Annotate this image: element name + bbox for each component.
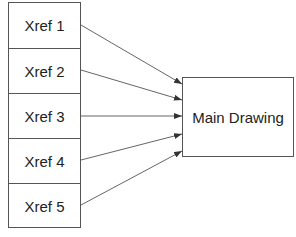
xref-label: Xref 2 bbox=[24, 63, 64, 80]
arrow-xref-1 bbox=[81, 25, 182, 84]
xref-label: Xref 1 bbox=[24, 17, 64, 34]
arrow-xref-4 bbox=[81, 134, 182, 160]
xref-box-3: Xref 3 bbox=[9, 93, 80, 138]
xref-box-2: Xref 2 bbox=[9, 48, 80, 93]
arrow-xref-5 bbox=[81, 151, 182, 205]
xref-label: Xref 3 bbox=[24, 108, 64, 125]
xref-box-4: Xref 4 bbox=[9, 138, 80, 183]
arrow-xref-2 bbox=[81, 70, 182, 100]
xref-label: Xref 4 bbox=[24, 153, 64, 170]
main-drawing-box: Main Drawing bbox=[182, 77, 294, 157]
main-drawing-label: Main Drawing bbox=[192, 109, 284, 126]
xref-stack: Xref 1 Xref 2 Xref 3 Xref 4 Xref 5 bbox=[8, 2, 81, 228]
xref-label: Xref 5 bbox=[24, 198, 64, 215]
xref-box-5: Xref 5 bbox=[9, 183, 80, 228]
xref-box-1: Xref 1 bbox=[9, 3, 80, 48]
